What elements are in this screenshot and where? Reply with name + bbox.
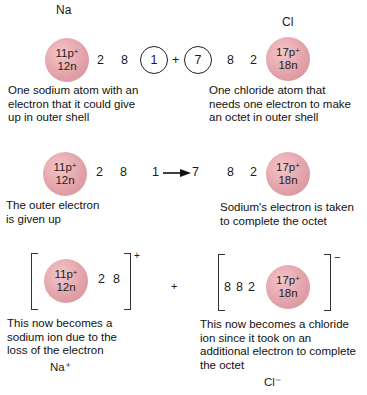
proton-count: 11p (53, 161, 71, 173)
proton-charge: + (295, 161, 300, 170)
transfer-from-electron: 1 (152, 165, 159, 179)
na-ion-charge: + (134, 250, 140, 261)
cl-shell-1: 2 (250, 53, 257, 67)
cl-ion-charge: − (334, 251, 340, 263)
chlorine-atom-caption: One chloride atom thatneeds one electron… (209, 84, 351, 125)
sodium-ion-symbol: Na⁺ (50, 360, 71, 374)
na-outer-electron-circle: 1 (140, 46, 168, 74)
na-ion-bracket-right (124, 253, 131, 310)
na-shell-2: 8 (113, 272, 120, 286)
plus-sign: + (172, 53, 179, 67)
neutron-count: 18n (278, 287, 297, 300)
neutron-count: 18n (278, 59, 297, 72)
cl-outer-electron-circle: 7 (184, 46, 212, 74)
neutron-count: 12n (57, 60, 76, 73)
sodium-atom-caption: One sodium atom with anelectron that it … (8, 84, 138, 125)
plus-sign: + (171, 280, 177, 292)
chloride-ion-symbol: Cl⁻ (264, 375, 281, 389)
proton-count: 11p (55, 47, 73, 59)
na-shell-2: 8 (120, 165, 127, 179)
proton-charge: + (73, 268, 78, 277)
proton-charge: + (74, 47, 79, 56)
na-ion-bracket-left (31, 253, 38, 310)
electron-taken-caption: Sodium's electron is takento complete th… (220, 201, 354, 228)
proton-charge: + (72, 161, 77, 170)
cl-shell-1: 2 (250, 165, 257, 179)
cl-shell-1: 2 (248, 280, 255, 294)
cl-shell-2: 8 (236, 280, 243, 294)
sodium-nucleus: 11p+ 12n (44, 259, 88, 303)
na-shell-1: 2 (96, 165, 103, 179)
chlorine-nucleus: 17p+ 18n (266, 265, 310, 309)
na-shell-2: 8 (121, 53, 128, 67)
na-shell-1: 2 (98, 272, 105, 286)
transfer-to-electron: 7 (192, 165, 199, 179)
cl-shell-2: 8 (227, 53, 234, 67)
cl-shell-3: 8 (224, 280, 231, 294)
neutron-count: 12n (56, 281, 75, 294)
cl-shell-2: 8 (227, 165, 234, 179)
electron-transfer-arrow-icon (162, 168, 192, 178)
proton-charge: + (295, 46, 300, 55)
sodium-nucleus: 11p+ 12n (45, 38, 89, 82)
na-shell-1: 2 (97, 53, 104, 67)
proton-count: 11p (54, 268, 72, 280)
sodium-ion-caption: This now becomes asodium ion due to thel… (7, 317, 117, 358)
proton-count: 17p (276, 46, 295, 58)
chloride-ion-caption: This now becomes a chlorideion since it … (200, 318, 356, 372)
proton-count: 17p (276, 274, 295, 286)
neutron-count: 12n (55, 174, 74, 187)
proton-charge: + (295, 274, 300, 283)
chlorine-nucleus: 17p+ 18n (266, 152, 310, 196)
proton-count: 17p (276, 161, 295, 173)
electron-given-caption: The outer electronis given up (6, 199, 99, 226)
neutron-count: 18n (278, 174, 297, 187)
cl-ion-bracket-right (324, 254, 331, 311)
sodium-nucleus: 11p+ 12n (43, 152, 87, 196)
chlorine-symbol: Cl (282, 15, 293, 29)
chlorine-nucleus: 17p+ 18n (266, 37, 310, 81)
sodium-symbol: Na (56, 3, 71, 17)
